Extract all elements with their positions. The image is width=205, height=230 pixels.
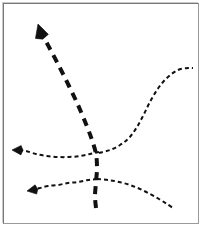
series-layer — [12, 24, 193, 208]
curve-lower-right-descending-curve — [97, 179, 173, 208]
curve-thick-rising-arrow — [42, 34, 97, 208]
curve-lower-left-arrow-curve — [34, 179, 97, 189]
arrowhead-lower-left-arrow-curve — [27, 185, 38, 194]
arrowhead-thick-rising-arrow — [35, 24, 48, 39]
curve-middle-left-arrow-curve — [19, 150, 99, 157]
arrowhead-middle-left-arrow-curve — [12, 146, 23, 155]
curve-right-s-curve — [99, 68, 193, 153]
curve-canvas — [0, 0, 205, 230]
figure-root — [0, 0, 205, 230]
